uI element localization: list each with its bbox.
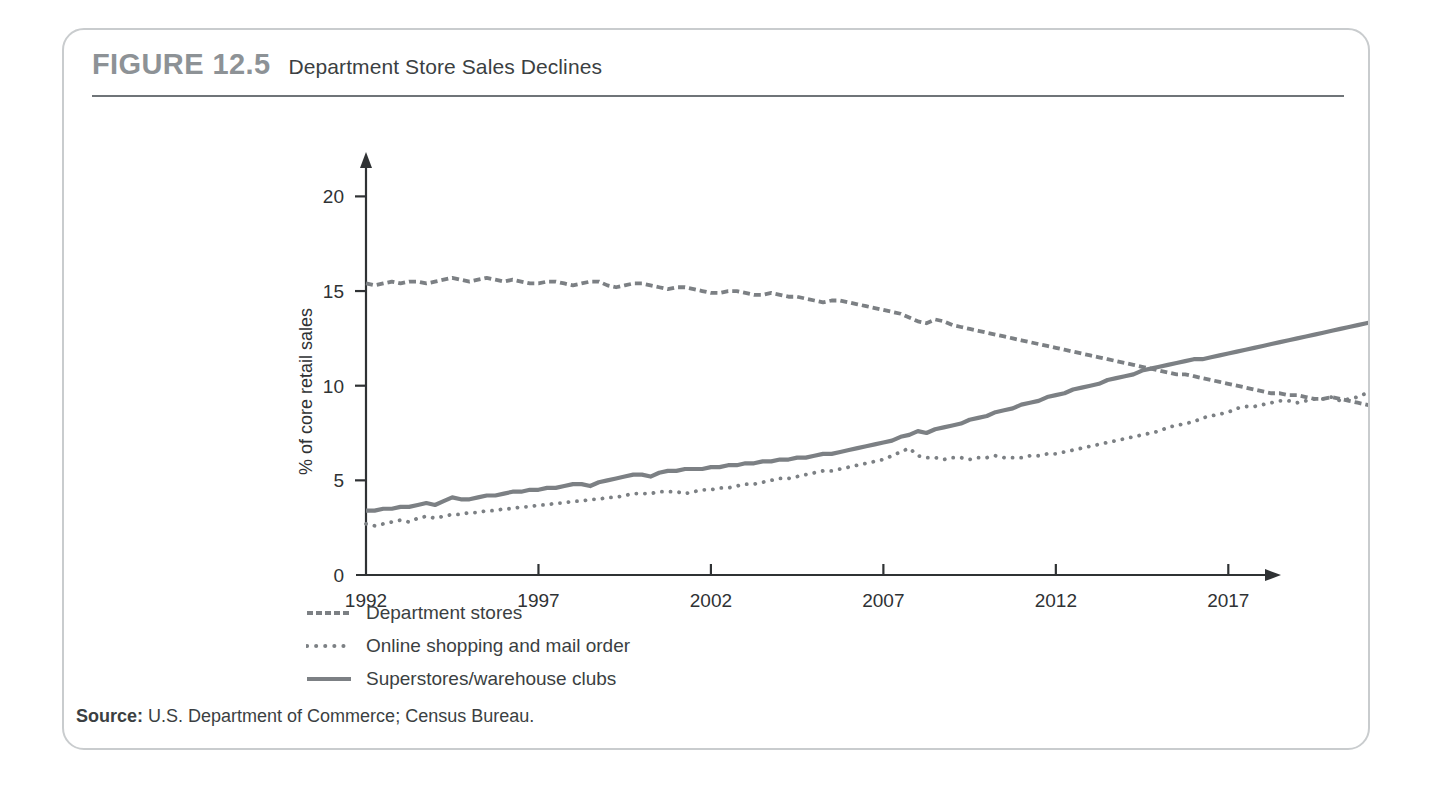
y-axis-tick-label: 5 bbox=[333, 470, 344, 491]
source-prefix: Source: bbox=[76, 706, 143, 726]
header-divider bbox=[92, 95, 1344, 97]
solid-line-icon bbox=[306, 673, 352, 685]
legend-label: Online shopping and mail order bbox=[366, 635, 630, 657]
y-axis-tick-label: 20 bbox=[323, 186, 344, 207]
source-text: U.S. Department of Commerce; Census Bure… bbox=[148, 706, 534, 726]
y-axis-tick-label: 15 bbox=[323, 281, 344, 302]
legend-item-superstores: Superstores/warehouse clubs bbox=[306, 668, 630, 690]
series-line-0 bbox=[366, 278, 1368, 484]
legend-label: Superstores/warehouse clubs bbox=[366, 668, 616, 690]
x-axis-tick-label: 2002 bbox=[690, 590, 732, 608]
series-line-2 bbox=[366, 285, 1368, 510]
figure-page: FIGURE 12.5 Department Store Sales Decli… bbox=[0, 0, 1439, 797]
x-axis-tick-label: 2007 bbox=[862, 590, 904, 608]
figure-header: FIGURE 12.5 Department Store Sales Decli… bbox=[92, 48, 602, 81]
series-line-1 bbox=[366, 249, 1368, 525]
source-note: Source: U.S. Department of Commerce; Cen… bbox=[76, 706, 534, 727]
y-axis-title: % of core retail sales bbox=[296, 308, 316, 475]
y-axis-tick-label: 10 bbox=[323, 376, 344, 397]
x-axis-tick-label: 2012 bbox=[1035, 590, 1077, 608]
chart-legend: Department stores Online shopping and ma… bbox=[306, 602, 630, 690]
x-axis-tick-label: 2017 bbox=[1207, 590, 1249, 608]
figure-number: FIGURE 12.5 bbox=[92, 48, 270, 81]
dashed-line-icon bbox=[306, 607, 352, 619]
dotted-line-icon bbox=[306, 640, 352, 652]
y-axis-arrow bbox=[360, 152, 372, 168]
chart-plot-area: 05101520199219972002200720122017% of cor… bbox=[64, 108, 1368, 608]
legend-item-online-shopping: Online shopping and mail order bbox=[306, 635, 630, 657]
figure-title: Department Store Sales Declines bbox=[288, 55, 602, 79]
legend-label: Department stores bbox=[366, 602, 522, 624]
legend-item-department-stores: Department stores bbox=[306, 602, 630, 624]
x-axis-arrow bbox=[1265, 569, 1281, 581]
line-chart: 05101520199219972002200720122017% of cor… bbox=[64, 108, 1368, 608]
y-axis-tick-label: 0 bbox=[333, 565, 344, 586]
figure-frame: FIGURE 12.5 Department Store Sales Decli… bbox=[62, 28, 1370, 750]
